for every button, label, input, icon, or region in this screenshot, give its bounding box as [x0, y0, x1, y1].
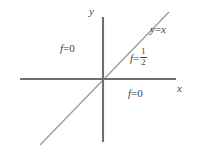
fraction-denominator: 2: [140, 58, 146, 67]
line-label-y-equals-x: y=x: [150, 24, 166, 35]
annotation-on-line-op: =: [133, 52, 139, 64]
x-axis-label: x: [177, 83, 182, 94]
annotation-lower-right: f=0: [128, 88, 143, 99]
fraction-one-half: 1 2: [140, 47, 146, 67]
math-figure: y x y=x f=0 f= 1 2 f=0: [0, 0, 199, 155]
annotation-upper-left: f=0: [60, 43, 75, 54]
line-label-rhs: x: [161, 23, 166, 35]
figure-canvas: [0, 0, 199, 155]
annotation-lower-right-value: 0: [137, 87, 143, 99]
annotation-on-line: f= 1 2: [130, 47, 147, 67]
y-axis-label: y: [89, 6, 94, 17]
fraction-numerator: 1: [140, 47, 146, 56]
annotation-upper-left-value: 0: [69, 42, 75, 54]
